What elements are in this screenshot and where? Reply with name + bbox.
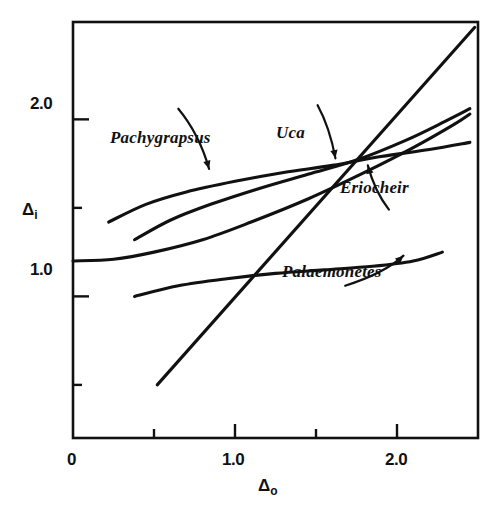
- plot-frame: [73, 22, 478, 438]
- x-axis-title: Δo: [258, 476, 278, 498]
- curve-uca: [109, 142, 470, 222]
- y-axis-title-sub: i: [34, 208, 37, 222]
- curve-label-palaemonetes: Palaemonetes: [282, 262, 382, 282]
- data-curves: [73, 27, 475, 385]
- y-axis-title-main: Δ: [22, 200, 34, 219]
- curve-label-uca: Uca: [276, 123, 305, 143]
- x-axis-title-sub: o: [270, 484, 277, 498]
- x-tick-label-1: 1.0: [222, 450, 244, 470]
- arrow-head-uca: [330, 150, 337, 159]
- x-tick-label-0: 0: [67, 450, 76, 470]
- y-tick-label-1: 1.0: [30, 260, 52, 280]
- x-axis-title-main: Δ: [258, 476, 270, 495]
- osmoregulation-figure: 2.0 1.0 0 1.0 2.0 Δi Δo Pachygrapsus Uca…: [0, 0, 501, 506]
- curve-label-pachygrapsus: Pachygrapsus: [110, 128, 211, 148]
- curve-label-eriocheir: Eriocheir: [340, 178, 409, 198]
- chart-canvas: [0, 0, 501, 506]
- x-tick-label-2: 2.0: [385, 450, 407, 470]
- y-axis-title: Δi: [22, 200, 38, 222]
- y-tick-label-2: 2.0: [30, 94, 52, 114]
- arrow-shaft-uca: [318, 105, 336, 158]
